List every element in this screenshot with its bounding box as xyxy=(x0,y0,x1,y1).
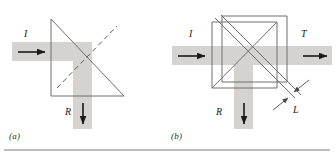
beam-label-incident-a: I xyxy=(24,28,27,39)
panel-caption-b: (b) xyxy=(171,131,182,141)
beam-label-reflected-b: R xyxy=(216,106,222,117)
dimension-label-L: L xyxy=(293,104,299,115)
beam-label-incident-b: I xyxy=(189,28,192,39)
dimension-arrow-lower-L xyxy=(273,98,288,110)
beam-label-reflected-a: R xyxy=(65,106,71,117)
panel-caption-a: (a) xyxy=(9,131,20,141)
beam-label-transmitted-b: T xyxy=(301,28,307,39)
optics-figure: I R I T R L (a) (b) xyxy=(0,0,336,155)
figure-canvas xyxy=(0,0,336,155)
dimension-arrow-upper-L xyxy=(294,80,309,92)
